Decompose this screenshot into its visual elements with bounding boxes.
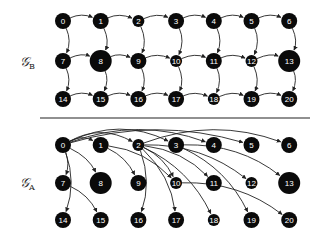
edge-b-12-13 — [257, 55, 278, 59]
node-a-6: 6 — [281, 137, 297, 153]
node-b-12: 12 — [246, 55, 258, 67]
node-a-15: 15 — [93, 212, 109, 228]
node-b-13: 13 — [278, 50, 300, 72]
node-label: 16 — [134, 95, 143, 104]
node-label: 19 — [247, 95, 256, 104]
node-label: 8 — [98, 57, 103, 66]
node-a-19: 19 — [244, 212, 260, 228]
node-a-7: 7 — [55, 175, 71, 191]
node-label: 8 — [98, 179, 103, 188]
node-label: 10 — [172, 179, 181, 188]
graph-b: 01234567891011121314151617181920 𝒢B — [20, 13, 300, 107]
edge-b-4-11 — [217, 28, 220, 52]
node-b-4: 4 — [206, 13, 222, 29]
node-label: 13 — [285, 179, 294, 188]
node-a-2: 2 — [132, 139, 144, 151]
graph-b-nodes: 01234567891011121314151617181920 — [55, 13, 300, 107]
node-label: 7 — [61, 57, 66, 66]
node-a-5: 5 — [244, 137, 260, 153]
edge-b-2-9 — [141, 26, 145, 52]
node-label: 15 — [96, 216, 105, 225]
node-b-14: 14 — [55, 91, 71, 107]
node-b-18: 18 — [208, 93, 220, 105]
node-b-11: 11 — [206, 53, 222, 69]
edge-a-1-9 — [108, 148, 135, 174]
node-label: 10 — [172, 57, 181, 66]
edge-b-2-3 — [144, 15, 168, 18]
edge-b-14-15 — [70, 93, 92, 96]
node-a-14: 14 — [55, 212, 71, 228]
node-label: 20 — [285, 95, 294, 104]
node-b-0: 0 — [55, 13, 71, 29]
node-label: 15 — [96, 95, 105, 104]
edge-b-9-10 — [146, 55, 170, 58]
node-label: 13 — [285, 57, 294, 66]
edge-b-1-2 — [108, 15, 132, 18]
node-label: 0 — [61, 141, 66, 150]
edge-b-3-10 — [179, 28, 182, 54]
node-label: 12 — [247, 57, 256, 66]
node-label: 3 — [174, 141, 179, 150]
node-label: 4 — [212, 141, 217, 150]
edge-b-11-12 — [221, 55, 245, 58]
edge-b-17-18 — [183, 93, 207, 96]
edge-a-3-13 — [184, 145, 280, 176]
edge-b-7-14 — [66, 68, 69, 90]
node-b-19: 19 — [244, 91, 260, 107]
node-b-17: 17 — [168, 91, 184, 107]
edge-b-0-7 — [66, 28, 69, 52]
node-label: 18 — [209, 95, 218, 104]
edge-a-2-12 — [144, 145, 246, 179]
edge-b-5-12 — [254, 28, 257, 54]
node-a-8: 8 — [90, 172, 112, 194]
node-label: 20 — [285, 216, 294, 225]
edge-b-10-17 — [179, 66, 182, 90]
node-b-3: 3 — [168, 13, 184, 29]
node-a-13: 13 — [278, 172, 300, 194]
node-a-12: 12 — [246, 177, 258, 189]
node-label: 17 — [172, 216, 181, 225]
edge-b-7-8 — [70, 55, 89, 58]
node-b-20: 20 — [281, 91, 297, 107]
node-a-20: 20 — [281, 212, 297, 228]
node-a-10: 10 — [170, 177, 182, 189]
node-label: 3 — [174, 17, 179, 26]
node-label: 4 — [212, 17, 217, 26]
edge-b-3-4 — [183, 15, 205, 18]
node-label: 9 — [136, 57, 141, 66]
node-b-2: 2 — [132, 15, 144, 27]
edge-b-9-16 — [142, 68, 145, 90]
edge-a-0-8 — [70, 148, 95, 172]
node-b-5: 5 — [244, 13, 260, 29]
edge-b-13-20 — [293, 71, 296, 91]
node-a-4: 4 — [206, 137, 222, 153]
node-label: 1 — [98, 17, 103, 26]
node-b-16: 16 — [130, 91, 146, 107]
node-label: 0 — [61, 17, 66, 26]
node-label: 12 — [247, 179, 256, 188]
edge-b-0-1 — [70, 15, 92, 18]
edge-b-19-20 — [259, 93, 281, 96]
edge-b-11-18 — [217, 68, 220, 92]
node-label: 14 — [59, 95, 68, 104]
node-b-9: 9 — [130, 53, 146, 69]
node-a-3: 3 — [168, 137, 184, 153]
graph-a: 01234567891011121314151617181920 𝒢A — [20, 129, 300, 228]
edge-b-1-8 — [104, 28, 107, 50]
node-a-9: 9 — [130, 175, 146, 191]
node-label: 7 — [61, 179, 66, 188]
node-a-11: 11 — [206, 175, 222, 191]
graph-a-label: 𝒢A — [20, 175, 35, 192]
node-a-1: 1 — [93, 137, 109, 153]
edge-b-8-15 — [104, 71, 107, 91]
node-label: 6 — [287, 17, 292, 26]
edge-b-10-11 — [182, 55, 206, 58]
node-label: 2 — [136, 141, 141, 150]
node-b-7: 7 — [55, 53, 71, 69]
edge-b-12-19 — [254, 66, 257, 90]
graph-a-nodes: 01234567891011121314151617181920 — [55, 137, 300, 228]
graph-a-label-subscript: A — [28, 183, 35, 192]
edge-a-10-20 — [182, 183, 282, 215]
edge-b-16-17 — [146, 93, 168, 96]
node-a-16: 16 — [130, 212, 146, 228]
